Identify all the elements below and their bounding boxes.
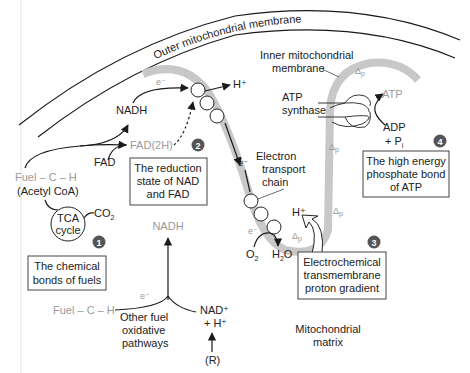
nad-plus-label: NAD⁺	[200, 304, 229, 316]
electron-label-top: e⁻	[156, 77, 166, 87]
delta-p-1: Δp	[292, 231, 302, 243]
nadh-label-top: NADH	[116, 104, 147, 116]
outer-membrane: Outer mitochondrial membrane	[19, 11, 460, 137]
pi-label: + Pi	[385, 135, 404, 149]
other-fuel-label-1: Other fuel	[120, 311, 168, 323]
co2-label: CO2	[94, 207, 115, 221]
inner-membrane-label-1: Inner mitochondrial	[260, 49, 354, 61]
delta-p-2: Δp	[333, 206, 343, 218]
fuel-label-bottom: Fuel – C – H	[53, 304, 115, 316]
nad-to-nadh-curve	[168, 296, 196, 312]
o2-label: O2	[246, 248, 259, 262]
acetyl-coa-label: (Acetyl CoA)	[17, 185, 79, 197]
svg-text:Electrochemical: Electrochemical	[303, 256, 381, 268]
acetyl-to-tca-line	[45, 200, 58, 210]
svg-text:of ATP: of ATP	[390, 181, 422, 193]
etc-label-3: chain	[262, 176, 288, 188]
proton-label-top: H⁺	[233, 78, 247, 90]
tca-label-2: cycle	[55, 224, 80, 236]
electron-label-bottom: e⁻	[248, 226, 258, 236]
svg-text:The chemical: The chemical	[34, 260, 99, 272]
svg-text:4: 4	[437, 137, 442, 147]
svg-text:phosphate bond: phosphate bond	[367, 168, 446, 180]
electron-label-lower: e⁻	[140, 291, 150, 301]
h-plus-nad-label: + H⁺	[204, 317, 227, 329]
svg-text:transmembrane: transmembrane	[303, 269, 380, 281]
svg-text:The high energy: The high energy	[366, 155, 446, 167]
box-chemical-bonds: The chemical bonds of fuels	[28, 256, 106, 290]
tca-label-1: TCA	[57, 212, 80, 224]
matrix-label-1: Mitochondrial	[295, 323, 360, 335]
svg-text:1: 1	[96, 238, 101, 248]
electron-arrow-top	[133, 88, 188, 103]
co2-line	[84, 213, 94, 218]
fuel-label-top: Fuel – C – H	[15, 171, 77, 183]
badge-2: 2	[192, 139, 205, 152]
other-fuel-label-3: pathways	[122, 337, 169, 349]
svg-text:proton gradient: proton gradient	[305, 282, 379, 294]
r-label: (R)	[205, 354, 220, 366]
svg-text:2: 2	[195, 141, 200, 151]
badge-1: 1	[93, 236, 106, 249]
atp-label: ATP	[382, 88, 403, 100]
fad2h-dashed-arrow	[174, 102, 193, 145]
atp-synthase-label-2: synthase	[282, 104, 326, 116]
svg-text:bonds of fuels: bonds of fuels	[33, 274, 102, 286]
svg-text:and FAD: and FAD	[147, 188, 190, 200]
mitochondrial-energy-diagram: Outer mitochondrial membrane e⁻ H⁺ NADH …	[0, 0, 470, 373]
fad-label: FAD	[94, 156, 115, 168]
box-reduction-state: The reduction state of NAD and FAD	[130, 158, 207, 205]
inner-membrane-label-2: membrane	[272, 62, 325, 74]
etc-label-1: Electron	[256, 150, 296, 162]
atp-synthase-label-1: ATP	[282, 91, 303, 103]
box-atp-bond: The high energy phosphate bond of ATP	[363, 151, 449, 197]
fad2h-label: FAD(2H)	[130, 139, 173, 151]
svg-text:state of NAD: state of NAD	[137, 175, 199, 187]
etc-label-2: transport	[262, 163, 305, 175]
badge-3: 3	[368, 236, 381, 249]
other-fuel-label-2: oxidative	[122, 324, 165, 336]
etc-label-pointer	[258, 189, 284, 199]
electron-label-etc: e⁻	[238, 158, 248, 168]
svg-text:3: 3	[371, 238, 376, 248]
badge-4: 4	[434, 135, 447, 148]
nadh-label-bottom: NADH	[152, 220, 183, 232]
matrix-label-2: matrix	[313, 336, 343, 348]
adp-label: ADP	[383, 121, 406, 133]
box-proton-gradient: Electrochemical transmembrane proton gra…	[298, 252, 386, 299]
svg-text:The reduction: The reduction	[134, 162, 201, 174]
